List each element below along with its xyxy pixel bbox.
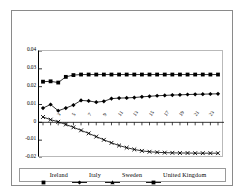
x-tick-label: 11 [117,110,124,117]
legend-label: Sweden [122,172,142,178]
legend-label: Italy [89,172,101,178]
x-tick-label: 15 [148,110,155,117]
x-tick-label: 7 [87,112,93,117]
legend-item-sweden[interactable]: Sweden [103,172,144,179]
x-tick-label: 5 [71,112,77,117]
y-tick-label: -0.02 [15,154,36,159]
legend-item-italy[interactable]: Italy [70,172,103,179]
x-axis-tick-labels: 357911131517192123 [38,112,223,142]
y-tick-label: -0.01 [15,136,36,141]
legend-item-ireland[interactable]: Ireland [37,172,70,179]
y-tick-label: 0 [15,119,36,124]
legend-label: Ireland [50,172,68,178]
y-tick-label: 0.02 [15,83,36,88]
diamond-marker-icon [72,172,87,179]
square-marker-icon [39,172,48,179]
chart-figure: 0.040.030.020.010-0.01-0.02 357911131517… [0,0,245,196]
y-axis-tick-labels: 0.040.030.020.010-0.01-0.02 [16,50,36,157]
y-tick-label: 0.03 [15,65,36,70]
legend-label: United Kingdom [163,172,206,178]
legend-item-united-kingdom[interactable]: United Kingdom [144,172,208,179]
chart-legend: IrelandItalySwedenUnited Kingdom [19,168,226,182]
cross-marker-icon [146,172,161,179]
triangle-marker-icon [105,172,120,179]
y-tick-label: 0.01 [15,101,36,106]
chart-area: 0.040.030.020.010-0.01-0.02 357911131517… [16,46,228,161]
x-tick-label: 9 [102,112,108,117]
x-tick-label: 3 [56,112,62,117]
y-tick-label: 0.04 [15,47,36,52]
